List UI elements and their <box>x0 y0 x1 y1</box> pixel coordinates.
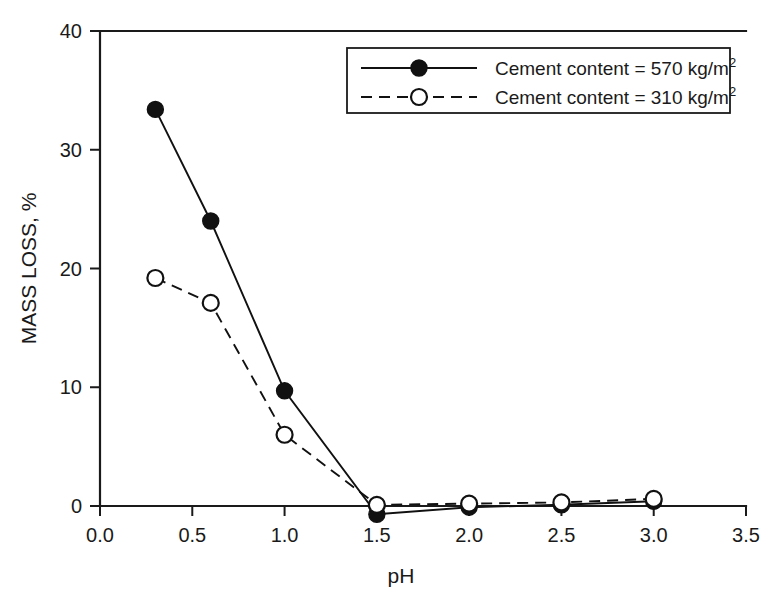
legend-label-2: Cement content = 310 kg/m2 <box>495 84 736 108</box>
series-line-2 <box>155 278 653 505</box>
line-chart: 0.00.51.01.52.02.53.03.5010203040 Cement… <box>0 0 779 607</box>
data-point-marker <box>369 497 385 513</box>
x-tick-label: 1.5 <box>363 524 391 546</box>
y-tick-label: 40 <box>60 20 82 42</box>
data-point-marker <box>553 494 569 510</box>
legend-label-1: Cement content = 570 kg/m2 <box>495 55 736 79</box>
y-tick-label: 0 <box>71 495 82 517</box>
series-line-1 <box>155 109 653 514</box>
legend-sample-marker-2 <box>411 89 427 105</box>
x-tick-label: 2.0 <box>455 524 483 546</box>
x-tick-label: 2.5 <box>548 524 576 546</box>
x-tick-label: 0.0 <box>86 524 114 546</box>
x-axis-title: pH <box>388 564 415 587</box>
x-tick-label: 1.0 <box>271 524 299 546</box>
y-tick-label: 20 <box>60 258 82 280</box>
legend-sample-marker-1 <box>411 60 427 76</box>
x-tick-label: 3.5 <box>732 524 760 546</box>
data-point-marker <box>277 383 293 399</box>
data-point-marker <box>646 491 662 507</box>
x-tick-label: 3.0 <box>640 524 668 546</box>
chart-legend: Cement content = 570 kg/m2Cement content… <box>347 48 736 113</box>
data-point-marker <box>147 101 163 117</box>
data-point-marker <box>147 270 163 286</box>
data-point-marker <box>277 427 293 443</box>
data-series <box>147 101 661 522</box>
y-tick-label: 30 <box>60 139 82 161</box>
y-axis-title: MASS LOSS, % <box>17 193 40 345</box>
data-point-marker <box>203 213 219 229</box>
data-point-marker <box>461 496 477 512</box>
chart-figure: 0.00.51.01.52.02.53.03.5010203040 Cement… <box>0 0 779 607</box>
data-point-marker <box>203 295 219 311</box>
y-tick-label: 10 <box>60 376 82 398</box>
x-tick-label: 0.5 <box>178 524 206 546</box>
